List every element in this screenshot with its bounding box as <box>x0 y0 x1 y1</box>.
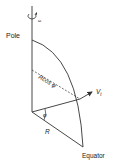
angle-label: φ <box>43 112 47 118</box>
rcos-phi-label: Rcos φ <box>37 74 57 89</box>
earth-rotation-diagram: ω Pole Rcos φ Vt φ R Equator <box>0 0 120 162</box>
radius-label: R <box>45 128 50 135</box>
pole-label: Pole <box>6 32 20 39</box>
tangential-velocity-arrow <box>80 92 92 99</box>
equator-label: Equator <box>82 152 106 160</box>
rotation-arrow-icon <box>28 12 37 19</box>
rotation-label: ω <box>38 18 41 23</box>
meridian-arc <box>32 40 83 147</box>
radius-to-equator-line <box>32 112 83 147</box>
tangential-velocity-label: Vt <box>96 88 102 97</box>
radius-to-point-line <box>32 99 80 112</box>
